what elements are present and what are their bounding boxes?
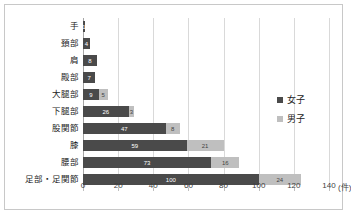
bar-segment[interactable]: 21 xyxy=(187,140,224,151)
category-label: 下腿部 xyxy=(52,106,79,117)
bar-row[interactable]: 腰部7316 xyxy=(83,157,239,168)
bar-segment[interactable]: 5 xyxy=(99,89,108,100)
bar-value-label: 47 xyxy=(121,126,128,132)
bar-row[interactable]: 下腿部263 xyxy=(83,106,134,117)
category-label: 手 xyxy=(70,21,79,32)
x-axis-unit-label: (件) xyxy=(338,181,351,192)
bar-value-label: 8 xyxy=(171,126,174,132)
category-label: 頚部 xyxy=(61,38,79,49)
bar-row[interactable]: 股関節478 xyxy=(83,123,180,134)
bar-segment[interactable]: 47 xyxy=(83,123,166,134)
x-tick-label: 0 xyxy=(81,181,85,190)
bar-value-label: 73 xyxy=(144,160,151,166)
legend-label: 女子 xyxy=(287,93,305,106)
bar-value-label: 4 xyxy=(85,41,88,47)
category-label: 腰部 xyxy=(61,157,79,168)
bar-segment[interactable]: 8 xyxy=(166,123,180,134)
bar-value-label: 7 xyxy=(87,75,90,81)
bar-segment[interactable]: 26 xyxy=(83,106,129,117)
bar-segment[interactable]: 4 xyxy=(83,38,90,49)
legend-item[interactable]: 女子 xyxy=(277,93,337,106)
category-label: 膝 xyxy=(70,140,79,151)
bar-segment[interactable]: 73 xyxy=(83,157,211,168)
bar-value-label: 3 xyxy=(130,109,133,115)
bar-row[interactable]: 膝5921 xyxy=(83,140,224,151)
x-tick-label: 80 xyxy=(219,181,228,190)
category-label: 股関節 xyxy=(52,123,79,134)
bar-segment[interactable]: 3 xyxy=(129,106,134,117)
category-label: 殿部 xyxy=(61,72,79,83)
bar-segment[interactable]: 100 xyxy=(83,174,259,185)
chart-legend: 女子男子 xyxy=(277,93,337,131)
bar-row[interactable]: 頚部4 xyxy=(83,38,90,49)
x-tick-label: 40 xyxy=(149,181,158,190)
category-label: 肩 xyxy=(70,55,79,66)
bar-row[interactable]: 殿部7 xyxy=(83,72,95,83)
category-label: 大腿部 xyxy=(52,89,79,100)
legend-label: 男子 xyxy=(287,112,305,125)
x-tick-label: 100 xyxy=(252,181,265,190)
category-label: 足部・足関節 xyxy=(25,174,79,185)
legend-item[interactable]: 男子 xyxy=(277,112,337,125)
x-tick-label: 140 xyxy=(322,181,335,190)
x-tick-label: 20 xyxy=(114,181,123,190)
bar-value-label: 24 xyxy=(276,177,283,183)
chart-frame: 手1頚部4肩8殿部7大腿部95下腿部263股関節478膝5921腰部7316足部… xyxy=(4,4,343,210)
bar-value-label: 1 xyxy=(83,24,85,30)
bar-value-label: 5 xyxy=(102,92,105,98)
bar-segment[interactable]: 9 xyxy=(83,89,99,100)
legend-swatch-icon xyxy=(277,116,283,122)
x-tick-label: 120 xyxy=(287,181,300,190)
bar-value-label: 26 xyxy=(102,109,109,115)
legend-swatch-icon xyxy=(277,97,283,103)
bar-value-label: 100 xyxy=(166,177,176,183)
bar-row[interactable]: 肩8 xyxy=(83,55,97,66)
bar-segment[interactable]: 16 xyxy=(211,157,239,168)
bar-row[interactable]: 手1 xyxy=(83,21,85,32)
bar-value-label: 21 xyxy=(202,143,209,149)
bar-segment[interactable]: 7 xyxy=(83,72,95,83)
bar-segment[interactable]: 59 xyxy=(83,140,187,151)
bar-value-label: 9 xyxy=(89,92,92,98)
bar-segment[interactable]: 8 xyxy=(83,55,97,66)
bar-value-label: 16 xyxy=(222,160,229,166)
x-tick-label: 60 xyxy=(184,181,193,190)
bar-value-label: 59 xyxy=(131,143,138,149)
bar-value-label: 8 xyxy=(88,58,91,64)
gridline xyxy=(259,18,260,188)
bar-segment[interactable]: 1 xyxy=(83,21,85,32)
bar-row[interactable]: 大腿部95 xyxy=(83,89,108,100)
